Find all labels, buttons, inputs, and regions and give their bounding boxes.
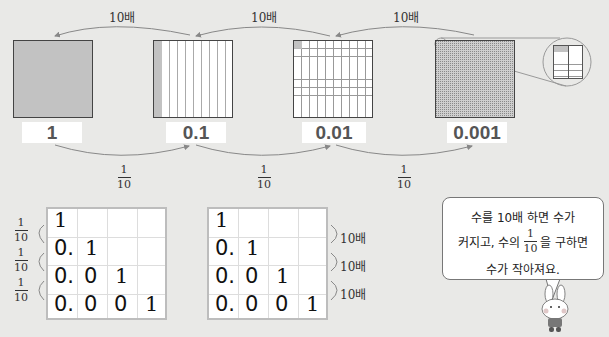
numerator: 1 xyxy=(401,164,408,176)
bubble-line-1: 수를 10배 하면 수가 xyxy=(443,208,603,225)
times-ten-label: 10배 xyxy=(393,8,419,25)
value-label: 0.001 xyxy=(447,122,507,143)
bubble-line-2: 커지고, 수의 110 을 구하면 xyxy=(443,228,603,255)
table-cell: 0. xyxy=(215,234,235,262)
square-one-tenth xyxy=(153,40,233,118)
table-cell: 0. xyxy=(54,234,74,262)
one-tenth-fraction: 110 xyxy=(523,228,537,255)
speech-bubble: 수를 10배 하면 수가 커지고, 수의 110 을 구하면 수가 작아져요. xyxy=(442,197,604,280)
numerator: 1 xyxy=(527,228,534,240)
bubble-text: 커지고, 수의 xyxy=(458,233,521,250)
table-cell: 1 xyxy=(276,262,289,290)
table-cell: 0 xyxy=(84,262,97,290)
denominator: 10 xyxy=(257,179,271,191)
place-value-table-left: 1 0. 1 0. 0 1 0. 0 0 1 xyxy=(46,207,167,320)
table-cell: 0 xyxy=(275,290,288,318)
numerator: 1 xyxy=(261,164,268,176)
table-cell: 1 xyxy=(145,290,158,318)
times-ten-label: 10배 xyxy=(340,285,366,302)
numerator: 1 xyxy=(18,247,25,259)
one-tenth-label: 110 xyxy=(14,277,28,304)
table-cell: 1 xyxy=(246,234,259,262)
table-cell: 1 xyxy=(306,290,319,318)
one-tenth-label: 110 xyxy=(257,164,271,191)
table-cell: 1 xyxy=(54,206,67,234)
table-cell: 1 xyxy=(85,234,98,262)
numerator: 1 xyxy=(121,164,128,176)
value-label: 1 xyxy=(22,122,82,143)
table-cell: 0 xyxy=(245,290,258,318)
numerator: 1 xyxy=(18,217,25,229)
table-cell: 1 xyxy=(215,206,228,234)
table-cell: 0 xyxy=(114,290,127,318)
times-ten-label: 10배 xyxy=(340,229,366,246)
place-value-table-right: 1 0. 1 0. 0 1 0. 0 0 1 xyxy=(207,207,328,320)
table-cell: 0. xyxy=(215,262,235,290)
table-cell: 1 xyxy=(115,262,128,290)
one-tenth-label: 110 xyxy=(397,164,411,191)
numerator: 1 xyxy=(18,277,25,289)
value-label: 0.01 xyxy=(302,122,366,143)
times-ten-label: 10배 xyxy=(251,8,277,25)
square-one-hundredth xyxy=(293,40,373,118)
times-ten-label: 10배 xyxy=(340,257,366,274)
denominator: 10 xyxy=(14,232,28,244)
bubble-text: 을 구하면 xyxy=(540,233,588,250)
square-one xyxy=(13,40,93,118)
bubble-line-3: 수가 작아져요. xyxy=(443,260,603,277)
value-label: 0.1 xyxy=(166,122,226,143)
table-cell: 0 xyxy=(245,262,258,290)
table-cell: 0 xyxy=(84,290,97,318)
one-tenth-label: 110 xyxy=(14,247,28,274)
denominator: 10 xyxy=(397,179,411,191)
table-cell: 0. xyxy=(54,290,74,318)
table-cell: 0. xyxy=(215,290,235,318)
square-one-thousandth xyxy=(435,40,515,118)
denominator: 10 xyxy=(14,262,28,274)
denominator: 10 xyxy=(523,243,537,255)
times-ten-label: 10배 xyxy=(109,8,135,25)
one-tenth-label: 110 xyxy=(14,217,28,244)
table-cell: 0. xyxy=(54,262,74,290)
denominator: 10 xyxy=(117,179,131,191)
magnified-inset xyxy=(553,45,583,79)
denominator: 10 xyxy=(14,292,28,304)
one-tenth-label: 110 xyxy=(117,164,131,191)
